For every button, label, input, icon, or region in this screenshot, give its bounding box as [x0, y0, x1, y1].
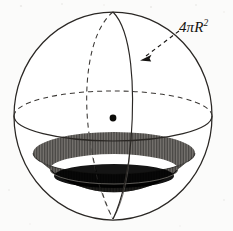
sphere-surface-area-figure: 4πR2 [0, 0, 233, 231]
sphere-center-dot [110, 115, 117, 122]
sphere-diagram-canvas [0, 0, 233, 231]
